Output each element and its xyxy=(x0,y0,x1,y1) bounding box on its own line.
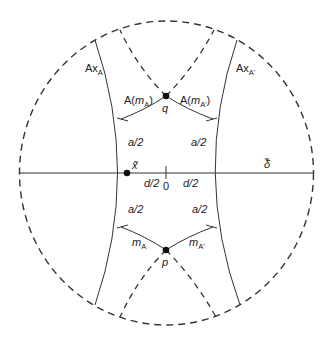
label-ax-a-prime: AxA' xyxy=(236,62,256,77)
label-d-half-left: d/2 xyxy=(144,177,159,189)
point-q xyxy=(163,93,170,100)
dashed-q-right xyxy=(166,30,214,96)
dashed-p-right xyxy=(166,250,216,317)
label-p: p xyxy=(161,256,168,268)
label-x-tilde: x̃ xyxy=(131,159,138,171)
label-ax-a: AxA xyxy=(85,62,103,77)
label-q: q xyxy=(162,102,169,114)
label-zero: 0 xyxy=(163,180,169,192)
diagram-canvas: AxA AxA' A(mA) A(mA') q p x̃ δ̃ 0 d/2 d/… xyxy=(0,0,330,344)
label-a-half-ur: a/2 xyxy=(191,136,206,148)
label-m-a: mA xyxy=(132,236,146,251)
label-a-m-a: A(mA) xyxy=(124,94,153,109)
label-d-half-right: d/2 xyxy=(183,177,198,189)
dashed-p-left xyxy=(120,250,166,317)
point-p xyxy=(163,247,170,254)
label-a-half-ul: a/2 xyxy=(128,136,143,148)
label-a-half-lr: a/2 xyxy=(192,203,207,215)
point-x-tilde xyxy=(124,170,131,177)
label-a-half-ll: a/2 xyxy=(128,203,143,215)
dashed-q-left xyxy=(120,30,166,96)
label-delta-tilde: δ̃ xyxy=(264,158,271,170)
hyperbolic-disk-diagram: AxA AxA' A(mA) A(mA') q p x̃ δ̃ 0 d/2 d/… xyxy=(0,0,330,344)
label-m-a-prime: mA' xyxy=(189,236,205,251)
